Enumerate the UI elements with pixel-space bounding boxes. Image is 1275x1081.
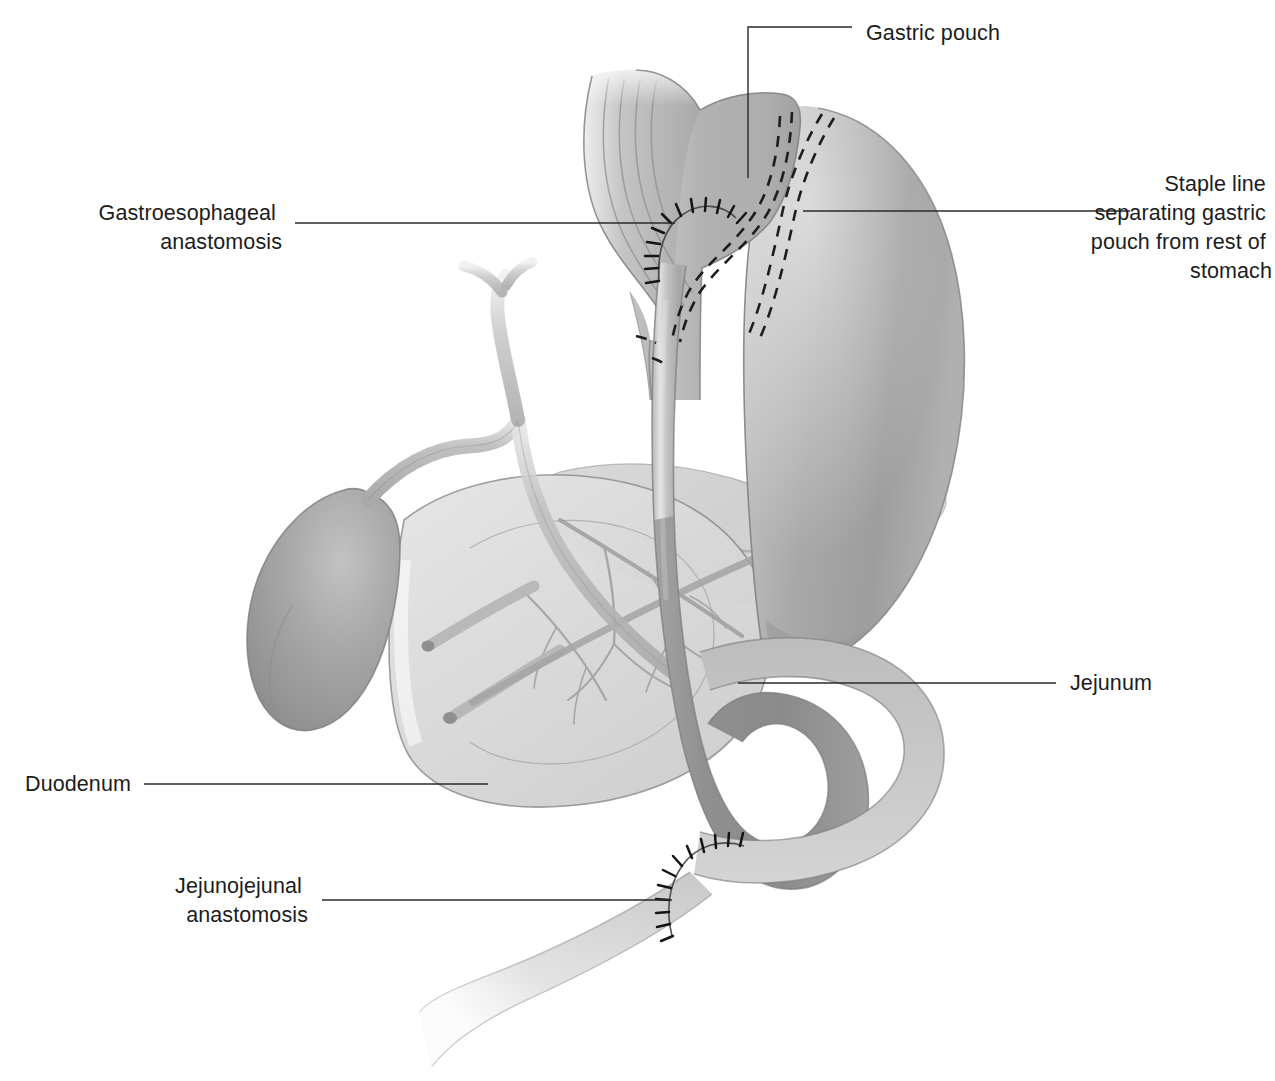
label-jejunum: Jejunum bbox=[1070, 671, 1152, 695]
biliopancreatic-limb bbox=[694, 638, 944, 883]
duodenum bbox=[389, 475, 771, 807]
figure-root: Gastric pouch Staple line separating gas… bbox=[0, 0, 1275, 1081]
label-staple-line: Staple line separating gastric pouch fro… bbox=[1091, 172, 1272, 283]
anatomical-diagram: Gastric pouch Staple line separating gas… bbox=[0, 0, 1275, 1081]
label-jejunojejunal-anastomosis: Jejunojejunal anastomosis bbox=[175, 874, 308, 927]
label-duodenum: Duodenum bbox=[25, 772, 131, 796]
label-gastroesophageal-anastomosis: Gastroesophageal anastomosis bbox=[99, 201, 282, 254]
gallbladder bbox=[247, 489, 400, 731]
label-gastric-pouch: Gastric pouch bbox=[866, 21, 1000, 45]
